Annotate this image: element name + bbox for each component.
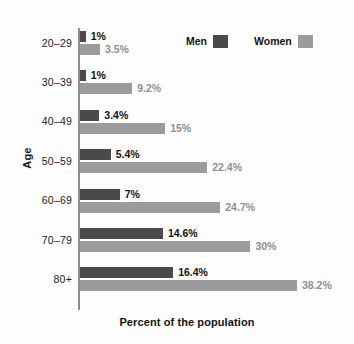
y-axis-tick-label: 60–69 [6,194,72,206]
y-axis-tick-label: 20–29 [6,37,72,49]
bar-value-label-men: 16.4% [178,266,208,278]
y-axis-tick-label: 50–59 [6,155,72,167]
chart-legend: Men Women [186,33,313,49]
bar-value-label-women: 38.2% [302,279,332,291]
legend-swatch-women-icon [298,35,313,48]
y-axis-tick-label: 80+ [6,273,72,285]
bar-women [80,44,100,55]
bar-value-label-women: 3.5% [105,43,129,55]
bar-value-label-men: 1% [91,69,106,81]
bar-value-label-women: 22.4% [212,161,242,173]
y-axis-tick-label: 40–49 [6,115,72,127]
y-axis-tick-label: 70–79 [6,234,72,246]
bar-value-label-women: 15% [170,122,191,134]
bar-men [80,189,120,200]
bar-men [80,70,86,81]
legend-label-men: Men [186,35,207,47]
bar-men [80,267,173,278]
bar-women [80,162,207,173]
bar-value-label-men: 3.4% [104,109,128,121]
bar-women [80,241,250,252]
legend-label-women: Women [254,35,292,47]
y-axis-tick-label: 30–39 [6,76,72,88]
bar-men [80,149,111,160]
bar-value-label-women: 9.2% [137,82,161,94]
bar-value-label-men: 14.6% [168,227,198,239]
bar-women [80,202,220,213]
bar-value-label-men: 1% [91,30,106,42]
bar-women [80,280,297,291]
x-axis-title: Percent of the population [78,316,296,328]
bar-men [80,31,86,42]
bar-women [80,83,132,94]
legend-swatch-men-icon [213,35,228,48]
bar-women [80,123,165,134]
bar-chart: Age Percent of the population Men Women … [0,0,354,344]
bar-value-label-women: 30% [255,240,276,252]
bar-value-label-men: 5.4% [116,148,140,160]
bar-value-label-men: 7% [125,188,140,200]
bar-value-label-women: 24.7% [225,201,255,213]
bar-men [80,228,163,239]
bar-men [80,110,99,121]
